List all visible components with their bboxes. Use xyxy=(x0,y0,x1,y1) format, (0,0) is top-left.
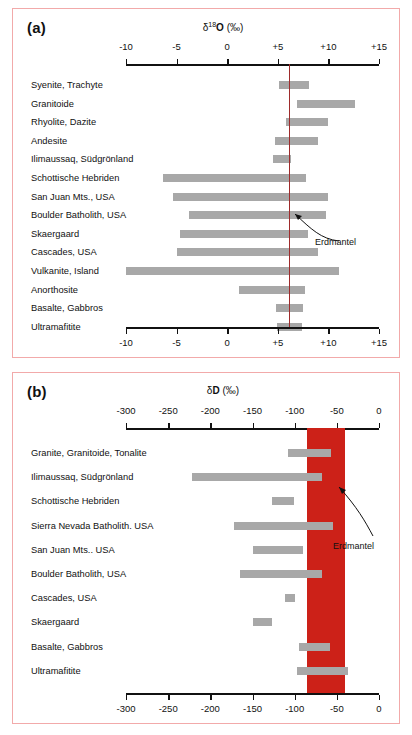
panel-a-axis-bottom xyxy=(126,327,379,329)
mantle-reference-band xyxy=(307,428,345,693)
range-bar xyxy=(253,618,272,626)
tick-label: +5 xyxy=(272,337,283,348)
range-bar xyxy=(272,497,294,505)
panel-a-tick-labels-bottom: -10-50+5+10+15 xyxy=(13,337,399,349)
tick-label: -10 xyxy=(119,337,133,348)
axis-tick xyxy=(328,329,329,334)
axis-tick xyxy=(177,329,178,334)
panel-b-tick-labels-bottom: -300-250-200-150-100-500 xyxy=(13,703,399,715)
axis-tick xyxy=(379,695,380,700)
panel-b-annotation-label: Erdmantel xyxy=(333,541,374,551)
tick-label: -100 xyxy=(285,703,304,714)
tick-label: -50 xyxy=(330,703,344,714)
tick-label: +15 xyxy=(371,337,387,348)
tick-label: -200 xyxy=(201,703,220,714)
range-bar xyxy=(239,286,305,294)
range-bar xyxy=(163,174,306,182)
tick-label: -300 xyxy=(116,703,135,714)
range-bar xyxy=(234,522,333,530)
tick-label: 0 xyxy=(376,703,381,714)
range-bar xyxy=(240,570,322,578)
panel-delta18o: (a) δ18O (‰) -10-50+5+10+15 Syenite, Tra… xyxy=(12,8,400,358)
range-bar xyxy=(192,473,322,481)
tick-label: -150 xyxy=(243,703,262,714)
tick-label: 0 xyxy=(225,337,230,348)
panel-a-plot-area xyxy=(13,9,399,357)
axis-tick xyxy=(168,695,169,700)
axis-tick xyxy=(253,695,254,700)
range-bar xyxy=(279,81,309,89)
axis-tick xyxy=(227,329,228,334)
axis-tick xyxy=(278,329,279,334)
panel-deltad: (b) δD (‰) -300-250-200-150-100-500 Gran… xyxy=(12,372,400,724)
axis-tick xyxy=(126,329,127,334)
mantle-reference-line xyxy=(289,64,290,329)
tick-label: -250 xyxy=(159,703,178,714)
range-bar xyxy=(297,667,348,675)
range-bar xyxy=(253,546,304,554)
tick-label: -5 xyxy=(172,337,180,348)
range-bar xyxy=(126,267,339,275)
range-bar xyxy=(275,137,319,145)
range-bar xyxy=(173,193,329,201)
axis-tick xyxy=(126,695,127,700)
tick-label: +10 xyxy=(320,337,336,348)
range-bar xyxy=(299,643,330,651)
panel-b-annotation-arrow xyxy=(331,481,401,541)
panel-b-axis-bottom xyxy=(126,693,379,695)
axis-tick xyxy=(295,695,296,700)
range-bar xyxy=(285,594,295,602)
range-bar xyxy=(286,118,329,126)
axis-tick xyxy=(210,695,211,700)
panel-a-annotation-label: Erdmantel xyxy=(315,237,356,247)
range-bar xyxy=(288,449,331,457)
axis-tick xyxy=(379,329,380,334)
axis-tick xyxy=(337,695,338,700)
range-bar xyxy=(297,100,355,108)
